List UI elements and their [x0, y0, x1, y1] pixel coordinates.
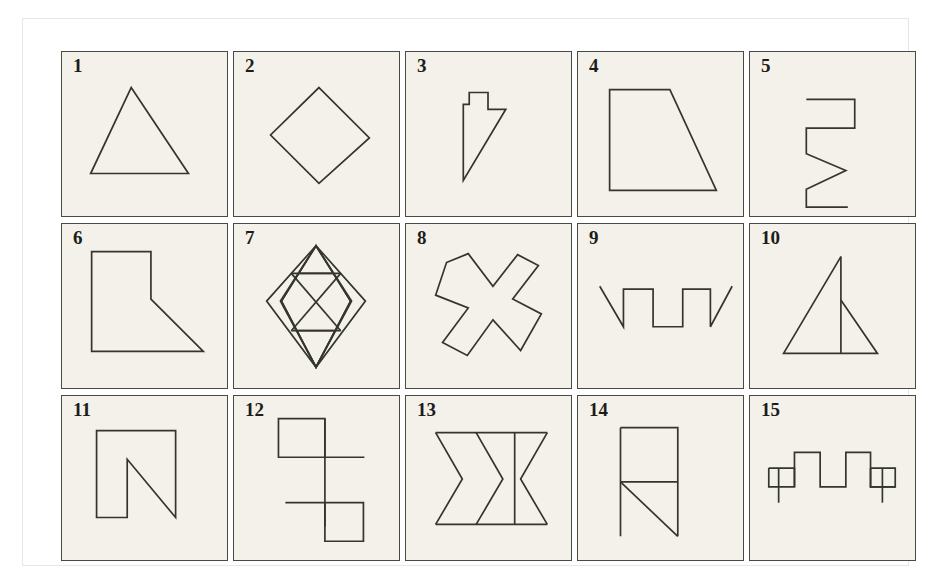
figure-label: 7: [245, 228, 255, 247]
diamond-shape: [234, 52, 399, 216]
figure-label: 9: [589, 228, 599, 247]
figure-cell-15[interactable]: 15: [749, 395, 916, 561]
offset-squares-with-bar-shape: [234, 396, 399, 560]
figure-grid: 1 2 3 4: [61, 51, 917, 569]
figure-label: 15: [761, 400, 780, 419]
figure-label: 5: [761, 56, 771, 75]
figure-cell-1[interactable]: 1: [61, 51, 228, 217]
figure-cell-10[interactable]: 10: [749, 223, 916, 389]
figure-label: 13: [417, 400, 436, 419]
concave-cross-shape: [406, 224, 571, 388]
square-wave-with-end-squares-shape: [750, 396, 915, 560]
figure-label: 4: [589, 56, 599, 75]
square-with-zigzag-tail-shape: [750, 52, 915, 216]
plate-inner-frame: 1 2 3 4: [22, 18, 909, 566]
figure-cell-12[interactable]: 12: [233, 395, 400, 561]
figure-label: 8: [417, 228, 427, 247]
figure-cell-9[interactable]: 9: [577, 223, 744, 389]
figure-cell-2[interactable]: 2: [233, 51, 400, 217]
figure-cell-4[interactable]: 4: [577, 51, 744, 217]
figure-label: 11: [73, 400, 91, 419]
figure-label: 1: [73, 56, 83, 75]
figure-plate: 1 2 3 4: [0, 0, 931, 584]
figure-label: 12: [245, 400, 264, 419]
figure-cell-5[interactable]: 5: [749, 51, 916, 217]
figure-cell-11[interactable]: 11: [61, 395, 228, 561]
n-polygon-shape: [62, 396, 227, 560]
crenellated-line-shape: [578, 224, 743, 388]
figure-cell-3[interactable]: 3: [405, 51, 572, 217]
figure-cell-8[interactable]: 8: [405, 223, 572, 389]
notched-arrow-shape: [406, 52, 571, 216]
figure-label: 10: [761, 228, 780, 247]
figure-cell-13[interactable]: 13: [405, 395, 572, 561]
subdivided-diamond-shape: [234, 224, 399, 388]
flag-polygon-shape: [62, 224, 227, 388]
figure-label: 6: [73, 228, 83, 247]
right-trapezoid-shape: [578, 52, 743, 216]
chevron-band-shape: [406, 396, 571, 560]
figure-label: 2: [245, 56, 255, 75]
triangle-shape: [62, 52, 227, 216]
figure-label: 14: [589, 400, 608, 419]
figure-cell-14[interactable]: 14: [577, 395, 744, 561]
rectangle-with-diagonal-shape: [578, 396, 743, 560]
figure-cell-7[interactable]: 7: [233, 223, 400, 389]
figure-cell-6[interactable]: 6: [61, 223, 228, 389]
triangle-with-median-shape: [750, 224, 915, 388]
figure-label: 3: [417, 56, 427, 75]
